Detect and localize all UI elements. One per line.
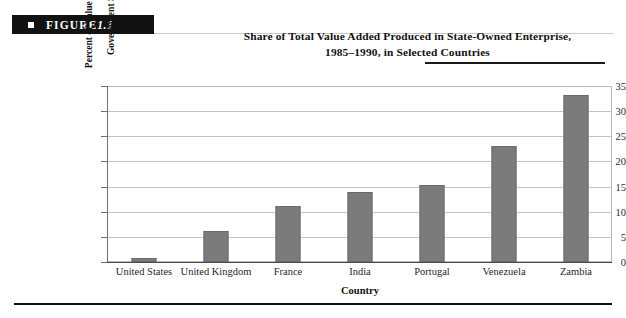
y-axis-title-line-1: Percent of Value Added in [83, 0, 94, 100]
bar[interactable] [420, 185, 445, 262]
bar-slot [540, 86, 612, 262]
x-axis-tick-label: France [274, 266, 303, 277]
bar-slot [468, 86, 540, 262]
y-axis-title: Percent of Value Added in Government Sec… [22, 0, 44, 100]
footer-rule [14, 303, 612, 305]
x-axis-tick-label: Portugal [414, 266, 450, 277]
y-axis-title-text: Percent of Value Added in Government Sec… [72, 0, 127, 100]
x-axis-tick-label: United Kingdom [181, 266, 252, 277]
x-axis-tick-label: India [349, 266, 371, 277]
bar[interactable] [492, 146, 517, 262]
x-axis-tick-labels-group: United StatesUnited KingdomFranceIndiaPo… [108, 266, 612, 284]
x-axis-tick-label: United States [116, 266, 172, 277]
bar[interactable] [564, 95, 589, 262]
bar-slot [252, 86, 324, 262]
x-axis-tick-label: Venezuela [482, 266, 525, 277]
y-axis-title-line-2: Government Sector [105, 0, 116, 100]
bar[interactable] [276, 206, 301, 262]
x-axis-line [107, 262, 612, 263]
bar-slot [180, 86, 252, 262]
x-axis-title: Country [108, 285, 612, 296]
bar[interactable] [204, 231, 229, 262]
x-axis-tick-label: Zambia [560, 266, 592, 277]
bars-group [108, 86, 612, 262]
bar-slot [324, 86, 396, 262]
bar[interactable] [132, 258, 157, 262]
bar-chart: 05101520253035 United StatesUnited Kingd… [0, 0, 626, 318]
bar[interactable] [348, 192, 373, 262]
bar-slot [108, 86, 180, 262]
bar-slot [396, 86, 468, 262]
